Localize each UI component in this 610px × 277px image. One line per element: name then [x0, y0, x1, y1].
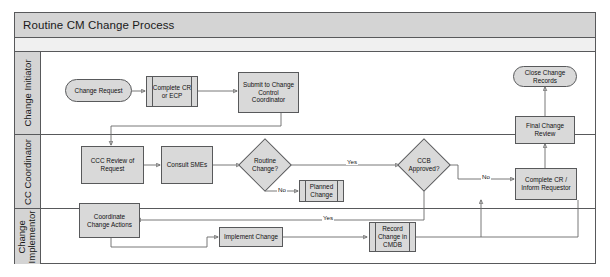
node-label: RecordChange inCMDB: [376, 225, 409, 248]
flowchart-canvas: Routine CM Change Process Change Initiat…: [0, 0, 610, 277]
node-label: Implement Change: [222, 233, 280, 241]
swimlane-label-cc-coordinator: CC Coordinator: [15, 135, 41, 208]
node-coordinate-change-actions[interactable]: CoordinateChange Actions: [79, 203, 140, 238]
node-label: CCBApproved?: [407, 157, 442, 173]
edge-label-ccb-approved-no: No: [481, 173, 491, 180]
node-final-change-review[interactable]: Final ChangeReview: [515, 116, 575, 144]
node-complete-cr-inform-requestor[interactable]: Complete CR /Inform Requestor: [515, 168, 577, 200]
swimlane-label-text: ChangeImplementor: [18, 210, 38, 263]
node-label: CoordinateChange Actions: [85, 213, 134, 229]
node-ccb-approved-decision[interactable]: CCBApproved?: [405, 146, 443, 184]
node-implement-change[interactable]: Implement Change: [219, 227, 283, 247]
node-label: Submit to ChangeControlCoordinator: [241, 81, 296, 104]
node-planned-change[interactable]: PlannedChange: [299, 180, 344, 202]
diagram-frame: Routine CM Change Process Change Initiat…: [14, 12, 596, 264]
node-label: RoutineChange?: [250, 157, 280, 173]
node-change-request[interactable]: Change Request: [65, 79, 132, 102]
node-label: PlannedChange: [308, 183, 335, 199]
node-routine-change-decision[interactable]: RoutineChange?: [246, 146, 284, 184]
swimlane-label-text: CC Coordinator: [23, 139, 33, 205]
page-title: Routine CM Change Process: [23, 19, 174, 31]
diagram-title-bar: Routine CM Change Process: [15, 13, 595, 38]
swimlane-label-text: Change Initiator: [23, 59, 33, 126]
node-label: Consult SMEs: [165, 161, 210, 169]
edge-label-ccb-approved-yes: Yes: [322, 214, 334, 221]
node-consult-smes[interactable]: Consult SMEs: [161, 146, 213, 184]
node-ccc-review-of-request[interactable]: CCC Review ofRequest: [81, 146, 144, 184]
swimlane-label-change-initiator: Change Initiator: [15, 52, 41, 134]
node-close-change-records[interactable]: Close ChangeRecords: [513, 66, 577, 87]
node-label: Final ChangeReview: [524, 122, 566, 138]
node-label: Close ChangeRecords: [523, 69, 568, 85]
node-record-change-in-cmdb[interactable]: RecordChange inCMDB: [369, 222, 416, 252]
swimlane-label-change-implementor: ChangeImplementor: [15, 209, 41, 264]
node-label: Change Request: [73, 87, 125, 95]
node-complete-cr-or-ecp[interactable]: Complete CRor ECP: [146, 76, 198, 107]
node-label: Complete CR /Inform Requestor: [519, 176, 572, 192]
edge-label-routine-change-no: No: [277, 186, 287, 193]
lane-header-strip: [15, 38, 595, 52]
node-submit-to-change-control-coordinator[interactable]: Submit to ChangeControlCoordinator: [238, 72, 299, 113]
node-label: Complete CRor ECP: [151, 84, 193, 100]
edge-label-routine-change-yes: Yes: [346, 158, 358, 165]
node-label: CCC Review ofRequest: [89, 157, 137, 173]
